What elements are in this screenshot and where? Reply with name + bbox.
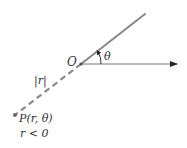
point-p (13, 113, 17, 117)
abs-r-label: |r| (34, 74, 47, 88)
point-p-label: P(r, θ) (18, 112, 53, 125)
r-condition-label: r < 0 (20, 127, 48, 140)
origin-label: O (67, 55, 77, 69)
terminal-ray (81, 14, 145, 64)
polar-negative-r-diagram: O θ |r| P(r, θ) r < 0 (0, 0, 187, 148)
angle-arc-icon (98, 52, 101, 64)
dashed-extension-line (15, 64, 81, 115)
angle-label: θ (104, 50, 111, 63)
origin-point (79, 62, 82, 65)
